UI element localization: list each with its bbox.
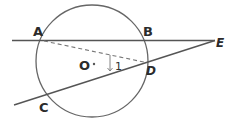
center-dot [93,63,95,65]
circle-o [36,5,148,117]
label-a: A [33,24,43,39]
chord-ad-dashed [44,41,146,63]
label-o: O [79,58,90,73]
label-e: E [216,36,225,50]
label-d: D [146,64,156,78]
label-b: B [143,24,153,39]
angle-1-label: 1 [115,60,122,73]
label-c: C [39,100,49,115]
angle-arrow-icon [108,55,113,71]
geometry-diagram: A B C D E O 1 [0,0,231,123]
